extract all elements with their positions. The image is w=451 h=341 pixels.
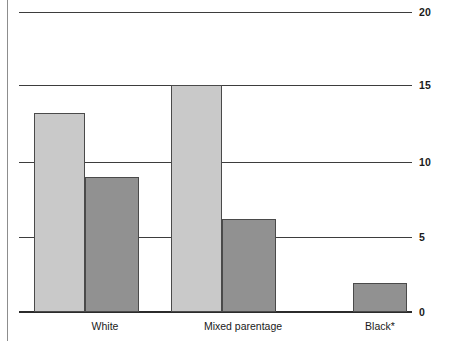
category-label-black: Black* bbox=[365, 320, 395, 332]
bar-chart: 20 15 10 5 0 White Mixed parentage Black… bbox=[0, 0, 451, 341]
y-tick-label-0: 0 bbox=[419, 307, 425, 318]
category-label-white: White bbox=[92, 320, 119, 332]
category-label-mixed-parentage: Mixed parentage bbox=[204, 320, 282, 332]
page-edge-rule bbox=[7, 0, 8, 341]
bar-mixed-parentage-dark bbox=[222, 219, 276, 312]
bar-white-dark bbox=[85, 177, 139, 312]
bar-black-dark bbox=[353, 283, 407, 312]
plot-area bbox=[19, 0, 412, 341]
y-tick-label-15: 15 bbox=[419, 80, 431, 91]
bar-mixed-parentage-light bbox=[171, 85, 222, 312]
gridline-20 bbox=[19, 12, 412, 13]
y-tick-label-5: 5 bbox=[419, 232, 425, 243]
y-tick-label-20: 20 bbox=[419, 7, 431, 18]
y-tick-label-10: 10 bbox=[419, 157, 431, 168]
bar-white-light bbox=[34, 113, 85, 312]
